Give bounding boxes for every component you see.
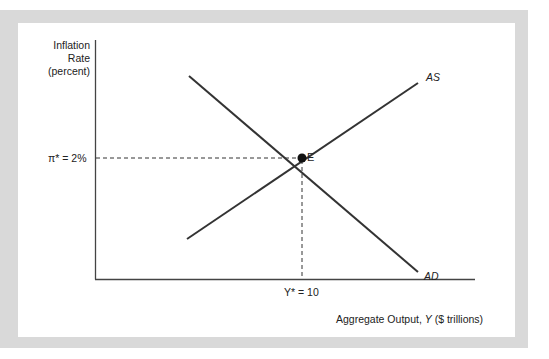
- y-axis-label: Inflation Rate (percent): [40, 39, 90, 78]
- equilibrium-point: [298, 154, 307, 163]
- pi-star-label: π* = 2%: [48, 152, 86, 165]
- as-label: AS: [426, 71, 440, 84]
- y-star-label: Y* = 10: [284, 286, 319, 299]
- ad-label: AD: [424, 270, 439, 283]
- equilibrium-label: E: [307, 151, 314, 164]
- x-axis-label: Aggregate Output, Y ($ trillions): [336, 313, 483, 326]
